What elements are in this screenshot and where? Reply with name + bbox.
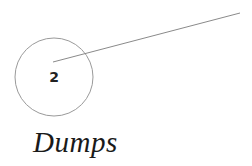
callout-number: 2	[34, 69, 74, 85]
leader-line	[53, 13, 240, 62]
callout-label: Dumps	[33, 126, 118, 159]
